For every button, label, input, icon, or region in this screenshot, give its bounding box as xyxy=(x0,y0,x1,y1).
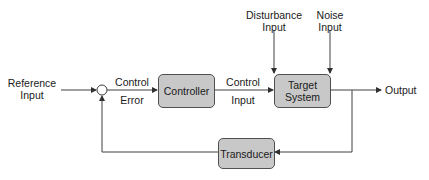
noise-input-line2: Input xyxy=(310,21,350,33)
control-error-line1: Control xyxy=(110,76,154,88)
control-input-line1: Control xyxy=(220,76,266,88)
transducer-block[interactable]: Transducer xyxy=(218,138,275,169)
reference-input-line2: Input xyxy=(4,89,60,101)
control-diagram: Reference Input Control Error Controller… xyxy=(0,0,429,180)
disturbance-input-line2: Input xyxy=(240,21,308,33)
reference-input-label: Reference Input xyxy=(4,77,60,101)
transducer-label: Transducer xyxy=(220,148,273,160)
control-input-label: Control Input xyxy=(220,76,266,106)
target-system-block[interactable]: Target System xyxy=(274,74,331,108)
reference-input-line1: Reference xyxy=(4,77,60,89)
control-error-line2: Error xyxy=(110,94,154,106)
target-system-line2: System xyxy=(285,91,320,103)
controller-block[interactable]: Controller xyxy=(158,74,215,108)
target-system-line1: Target xyxy=(285,79,320,91)
output-label: Output xyxy=(385,84,417,96)
summing-junction xyxy=(97,85,107,95)
noise-input-line1: Noise xyxy=(310,9,350,21)
control-error-label: Control Error xyxy=(110,76,154,106)
noise-input-label: Noise Input xyxy=(310,9,350,33)
controller-label: Controller xyxy=(164,85,210,97)
disturbance-input-label: Disturbance Input xyxy=(240,9,308,33)
control-input-line2: Input xyxy=(220,94,266,106)
disturbance-input-line1: Disturbance xyxy=(240,9,308,21)
